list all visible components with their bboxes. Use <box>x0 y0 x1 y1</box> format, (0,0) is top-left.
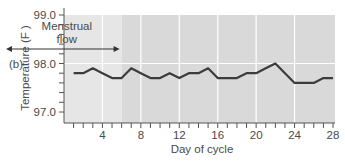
annotation-text-line1: Menstrual <box>42 20 93 32</box>
annotation-text-line2: flow <box>57 33 78 45</box>
svg-text:24: 24 <box>288 129 301 141</box>
svg-text:16: 16 <box>211 129 224 141</box>
svg-text:98.0: 98.0 <box>34 58 56 70</box>
bbt-chart: 97.098.099.0481216202428 Menstrual flow … <box>0 0 345 162</box>
svg-text:4: 4 <box>99 129 106 141</box>
svg-text:20: 20 <box>250 129 263 141</box>
y-axis-label: Temperature (F ) <box>19 25 31 111</box>
svg-text:12: 12 <box>173 129 186 141</box>
svg-text:28: 28 <box>327 129 340 141</box>
svg-text:97.0: 97.0 <box>34 106 56 118</box>
x-axis-label: Day of cycle <box>171 143 234 155</box>
svg-text:8: 8 <box>138 129 144 141</box>
